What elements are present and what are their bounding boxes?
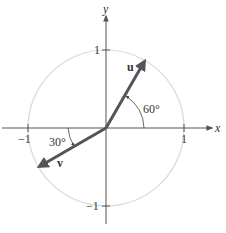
y-axis-label: y (102, 2, 109, 16)
angle-label-60: 60° (143, 102, 160, 116)
x-axis-label: x (214, 121, 221, 135)
y-tick-label: 1 (94, 43, 100, 57)
vector-u-label: u (127, 60, 134, 74)
unit-circle-diagram: x y −11 1−1 60° 30° u v (0, 0, 226, 233)
vector-u (106, 62, 144, 128)
angle-label-30: 30° (49, 135, 66, 149)
angle-arc-60 (126, 96, 144, 128)
x-tick-label: −1 (18, 132, 31, 146)
vector-v-label: v (57, 156, 63, 170)
x-tick-label: 1 (181, 132, 187, 146)
angle-arc-30 (68, 128, 74, 146)
x-ticks: −11 (18, 124, 187, 146)
y-tick-label: −1 (86, 199, 99, 213)
